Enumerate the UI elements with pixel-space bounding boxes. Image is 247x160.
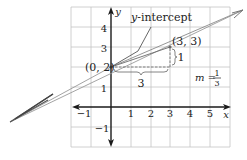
x-tick: 1 bbox=[128, 108, 134, 119]
x-tick: 4 bbox=[187, 108, 193, 119]
x-tick: 5 bbox=[207, 108, 213, 119]
coordinate-plane: −1 1 2 3 4 5 x 4 3 1 −1 y (0, 2) (3, 3) … bbox=[0, 0, 247, 160]
run-brace bbox=[114, 69, 168, 75]
rise-brace bbox=[172, 49, 177, 65]
y-axis-label: y bbox=[114, 6, 121, 17]
run-label: 3 bbox=[138, 77, 145, 90]
point-label-3-3: (3, 3) bbox=[172, 35, 202, 48]
y-intercept-label: y-intercept bbox=[130, 11, 192, 24]
slope-numerator: 1 bbox=[214, 69, 219, 78]
point-label-0-2: (0, 2) bbox=[85, 61, 115, 74]
rise-label: 1 bbox=[178, 51, 185, 64]
y-tick: 3 bbox=[101, 43, 107, 54]
x-axis-label: x bbox=[223, 109, 229, 120]
slope-prefix: m = bbox=[195, 72, 216, 83]
y-tick: 1 bbox=[101, 83, 107, 94]
x-tick: −1 bbox=[77, 108, 92, 119]
y-tick: −1 bbox=[95, 123, 110, 134]
x-tick: 3 bbox=[167, 108, 173, 119]
x-tick: 2 bbox=[148, 108, 154, 119]
slope-label: m = 1 3 bbox=[195, 69, 221, 88]
y-tick: 4 bbox=[101, 23, 107, 34]
x-tick-labels: −1 1 2 3 4 5 x bbox=[77, 108, 230, 120]
slope-denominator: 3 bbox=[214, 79, 219, 88]
